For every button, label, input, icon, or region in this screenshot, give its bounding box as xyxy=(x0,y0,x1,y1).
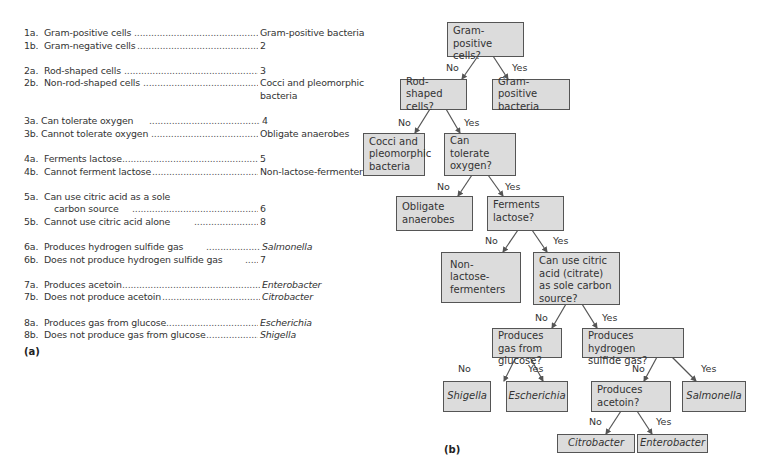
node-salmonella: Salmonella xyxy=(682,381,746,412)
edge-label-yes: Yes xyxy=(464,117,479,128)
node-gram-positive-bacteria: Gram-positive bacteria xyxy=(492,79,570,110)
node-rod-shaped-question: Rod-shaped cells? xyxy=(400,79,467,110)
node-ferments-lactose-question: Ferments lactose? xyxy=(487,196,564,231)
edge-label-yes: Yes xyxy=(553,235,568,246)
edge-label-no: No xyxy=(485,235,498,246)
node-gas-from-glucose-question: Produces gas from glucose? xyxy=(492,328,562,358)
node-hydrogen-sulfide-question: Produces hydrogen sulfide gas? xyxy=(582,328,684,358)
node-non-lactose-fermenters: Non-lactose-fermenters xyxy=(441,252,521,303)
node-cocci-pleomorphic: Cocci and pleomorphic bacteria xyxy=(363,133,425,176)
node-escherichia: Escherichia xyxy=(506,381,568,412)
edge-label-no: No xyxy=(446,62,459,73)
node-tolerate-oxygen-question: Can tolerate oxygen? xyxy=(444,133,516,176)
edge-label-yes: Yes xyxy=(701,363,716,374)
edge-label-no: No xyxy=(437,181,450,192)
node-shigella: Shigella xyxy=(443,381,491,412)
edge-label-yes: Yes xyxy=(602,312,617,323)
node-obligate-anaerobes: Obligate anaerobes xyxy=(396,196,473,231)
node-acetoin-question: Produces acetoin? xyxy=(591,381,671,412)
node-gram-positive-question: Gram-positive cells? xyxy=(447,22,524,57)
node-citric-acid-question: Can use citric acid (citrate) as sole ca… xyxy=(533,252,620,305)
panel-label-b: (b) xyxy=(444,444,460,455)
node-enterobacter: Enterobacter xyxy=(637,434,708,453)
edge-label-no: No xyxy=(458,363,471,374)
edge-label-yes: Yes xyxy=(512,62,527,73)
edge-label-yes: Yes xyxy=(656,416,671,427)
edge-label-no: No xyxy=(398,117,411,128)
edge-label-no: No xyxy=(589,416,602,427)
edge-label-no: No xyxy=(535,312,548,323)
node-citrobacter: Citrobacter xyxy=(557,434,635,453)
edge-label-yes: Yes xyxy=(505,181,520,192)
